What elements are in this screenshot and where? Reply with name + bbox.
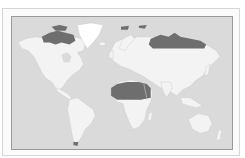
world-map-svg — [12, 17, 232, 149]
world-map — [11, 16, 233, 150]
